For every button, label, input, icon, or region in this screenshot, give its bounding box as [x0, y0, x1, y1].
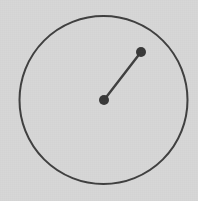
center-point [99, 95, 109, 105]
figure-canvas [0, 0, 198, 201]
circle-diagram-svg [0, 0, 198, 201]
figure-background [0, 0, 198, 201]
interior-point [136, 47, 146, 57]
